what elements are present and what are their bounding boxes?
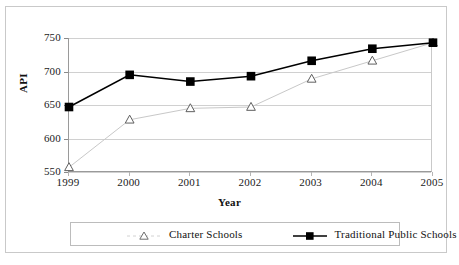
x-axis-title: Year (0, 196, 459, 208)
legend-label-charter-schools: Charter Schools (169, 228, 243, 240)
chart-figure: API 550600650700750 19992000200120022003… (0, 0, 459, 265)
x-tick-label-1999: 1999 (40, 176, 96, 188)
x-tick-label-2001: 2001 (161, 176, 217, 188)
open-triangle-marker-icon (125, 228, 163, 240)
x-tick-mark-2003 (311, 172, 312, 176)
data-point-charter-2001 (186, 104, 195, 112)
legend-item-charter-schools[interactable]: Charter Schools (125, 228, 243, 240)
series-layer (69, 38, 433, 172)
x-tick-label-2000: 2000 (101, 176, 157, 188)
x-tick-mark-2001 (189, 172, 190, 176)
legend-item-traditional-public-schools[interactable]: Traditional Public Schools (291, 228, 457, 240)
data-point-traditional-2000 (125, 71, 134, 80)
x-tick-label-2003: 2003 (283, 176, 339, 188)
x-tick-mark-2000 (129, 172, 130, 176)
data-point-traditional-1999 (65, 103, 74, 112)
plot-area (68, 38, 432, 172)
x-tick-label-2004: 2004 (343, 176, 399, 188)
x-tick-mark-1999 (68, 172, 69, 176)
y-tick-label-650: 650 (21, 99, 61, 110)
x-tick-mark-2004 (371, 172, 372, 176)
x-tick-mark-2002 (250, 172, 251, 176)
data-point-charter-1999 (65, 163, 74, 171)
data-point-traditional-2002 (247, 72, 256, 81)
filled-square-marker-icon (291, 228, 329, 240)
data-point-charter-2002 (247, 102, 256, 110)
y-tick-label-600: 600 (21, 133, 61, 144)
data-point-traditional-2005 (429, 38, 438, 47)
data-point-traditional-2004 (368, 44, 377, 53)
y-tick-label-700: 700 (21, 66, 61, 77)
x-tick-label-2005: 2005 (404, 176, 459, 188)
x-tick-mark-2005 (432, 172, 433, 176)
y-tick-label-750: 750 (21, 32, 61, 43)
data-point-traditional-2001 (186, 77, 195, 86)
chart-legend: Charter Schools Traditional Public Schoo… (70, 222, 400, 246)
x-tick-label-2002: 2002 (222, 176, 278, 188)
legend-label-traditional-public-schools: Traditional Public Schools (335, 228, 457, 240)
data-point-traditional-2003 (307, 56, 316, 65)
